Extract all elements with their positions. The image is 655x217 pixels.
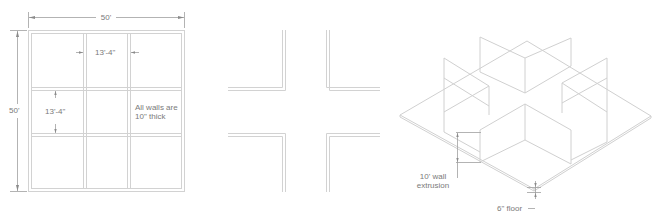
diagram-canvas <box>0 0 655 217</box>
dim-room-width: 13'-4" <box>95 48 115 57</box>
wall-extrusion-label-line2: extrusion <box>411 181 455 190</box>
dim-overall-height: 50' <box>9 106 19 115</box>
corner-wall-segments <box>228 30 380 192</box>
corner-bottom-left <box>228 134 286 193</box>
wall-thickness-note-line2: 10" thick <box>135 112 165 121</box>
corner-top-left <box>228 30 286 91</box>
corner-top-right <box>327 30 381 91</box>
plan-dimensions <box>10 12 185 192</box>
floor-thickness-label: 6" floor <box>497 204 522 213</box>
extruded-walls <box>444 37 607 164</box>
dim-room-height: 13'-4" <box>45 107 65 116</box>
corner-bottom-right <box>327 134 381 193</box>
dim-overall-width: 50' <box>96 13 116 22</box>
isometric-model <box>400 37 651 191</box>
wall-extrusion-label-line1: 10' wall <box>413 172 453 181</box>
isometric-dimensions <box>456 133 541 209</box>
wall-thickness-note-line1: All walls are <box>135 103 178 112</box>
